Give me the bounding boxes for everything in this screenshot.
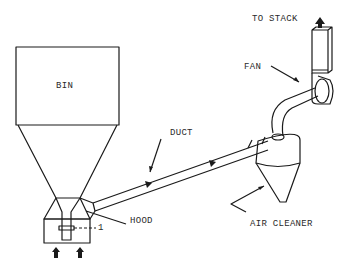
intake-arrow-icon (52, 247, 60, 258)
hood-shape (44, 198, 90, 219)
bin-label: BIN (56, 81, 73, 91)
to-stack-label: TO STACK (252, 14, 298, 24)
air-cleaner-label: AIR CLEANER (250, 219, 313, 229)
intake-arrow-icon (76, 247, 84, 258)
duct-label: DUCT (170, 128, 193, 138)
stack-shape (312, 27, 332, 73)
duct-shape (93, 141, 268, 211)
point-marker-label: 1 (98, 223, 104, 233)
hopper-shape (18, 125, 117, 198)
air-cleaner-shape (256, 134, 300, 166)
hood-label: HOOD (130, 216, 153, 226)
ventilation-diagram: TO STACK FAN BIN DUCT HOOD AIR CLEANER 1 (0, 0, 346, 267)
duct-arrow-icon (209, 160, 216, 167)
fan-label: FAN (244, 62, 261, 72)
stack-arrow-icon (315, 17, 325, 28)
